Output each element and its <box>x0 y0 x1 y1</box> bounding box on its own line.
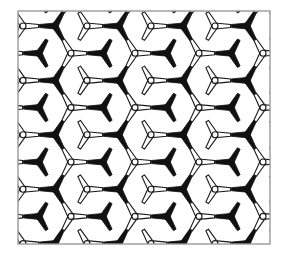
unit-hub <box>84 23 90 29</box>
unit-hub <box>164 159 170 165</box>
unit-hub <box>260 159 266 165</box>
unit-hub <box>228 214 234 220</box>
unit-hub <box>100 159 106 165</box>
unit-hub <box>100 214 106 220</box>
unit-hub <box>116 186 122 192</box>
unit-hub <box>84 132 90 138</box>
unit-hub <box>116 23 122 29</box>
unit-hub <box>52 78 58 84</box>
unit-hub <box>132 50 138 56</box>
unit-hub <box>20 132 26 138</box>
unit-hub <box>132 213 138 219</box>
unit-hub <box>52 23 58 29</box>
unit-hub <box>244 78 250 84</box>
unit-hub <box>132 159 138 165</box>
unit-hub <box>100 105 106 111</box>
unit-hub <box>68 105 74 111</box>
unit-hub <box>244 23 250 29</box>
unit-hub <box>260 50 266 56</box>
lattice-figure <box>0 0 288 260</box>
unit-hub <box>212 132 218 138</box>
unit-hub <box>196 50 202 56</box>
unit-hub <box>180 132 186 138</box>
unit-hub <box>36 50 42 56</box>
unit-hub <box>148 132 154 138</box>
unit-hub <box>212 186 218 192</box>
diagram-canvas <box>0 0 288 260</box>
unit-hub <box>132 105 138 111</box>
unit-hub <box>212 77 218 83</box>
unit-hub <box>36 159 42 165</box>
unit-hub <box>260 213 266 219</box>
unit-hub <box>180 78 186 84</box>
unit-hub <box>68 159 74 165</box>
unit-hub <box>36 105 42 111</box>
unit-hub <box>148 77 154 83</box>
unit-hub <box>116 78 122 84</box>
unit-hub <box>52 186 58 192</box>
unit-hub <box>20 23 26 29</box>
unit-hub <box>244 132 250 138</box>
unit-hub <box>180 23 186 29</box>
unit-hub <box>164 105 170 111</box>
unit-hub <box>148 23 154 29</box>
unit-hub <box>20 77 26 83</box>
unit-hub <box>84 77 90 83</box>
unit-hub <box>68 213 74 219</box>
unit-hub <box>84 186 90 192</box>
unit-hub <box>164 214 170 220</box>
unit-hub <box>212 23 218 29</box>
unit-hub <box>116 132 122 138</box>
unit-hub <box>36 214 42 220</box>
unit-hub <box>196 105 202 111</box>
unit-hub <box>68 50 74 56</box>
unit-hub <box>244 186 250 192</box>
unit-hub <box>180 186 186 192</box>
unit-hub <box>100 50 106 56</box>
unit-hub <box>196 159 202 165</box>
unit-hub <box>228 159 234 165</box>
unit-hub <box>20 186 26 192</box>
unit-hub <box>260 105 266 111</box>
unit-hub <box>148 186 154 192</box>
unit-hub <box>228 50 234 56</box>
unit-hub <box>228 105 234 111</box>
unit-hub <box>196 213 202 219</box>
unit-hub <box>52 132 58 138</box>
unit-hub <box>164 50 170 56</box>
